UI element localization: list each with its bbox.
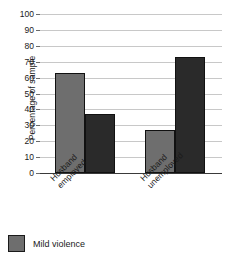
y-tick-mark xyxy=(36,62,40,63)
y-tick-mark xyxy=(36,14,40,15)
y-tick-label: 70 xyxy=(25,57,34,67)
legend-swatch-mild-violence xyxy=(8,235,25,252)
y-tick-mark xyxy=(36,109,40,110)
y-tick-label: 80 xyxy=(25,41,34,51)
y-tick-label: 60 xyxy=(25,73,34,83)
y-tick-label: 10 xyxy=(25,152,34,162)
y-tick-label: 50 xyxy=(25,89,34,99)
plot-area: 0102030405060708090100 xyxy=(40,14,222,173)
y-tick-label: 90 xyxy=(25,25,34,35)
legend-label-mild-violence: Mild violence xyxy=(33,239,85,249)
y-tick-mark xyxy=(36,94,40,95)
y-tick-label: 30 xyxy=(25,120,34,130)
gridline xyxy=(40,46,222,47)
y-tick-label: 100 xyxy=(20,9,34,19)
y-tick-mark xyxy=(36,173,40,174)
y-tick-mark xyxy=(36,46,40,47)
y-tick-label: 0 xyxy=(29,168,34,178)
bar xyxy=(85,114,115,173)
gridline xyxy=(40,30,222,31)
bar-chart: Percentage of sample 0102030405060708090… xyxy=(0,0,229,258)
y-tick-mark xyxy=(36,78,40,79)
legend: Mild violence xyxy=(8,235,85,252)
y-tick-label: 40 xyxy=(25,104,34,114)
y-tick-mark xyxy=(36,125,40,126)
gridline xyxy=(40,14,222,15)
y-tick-mark xyxy=(36,30,40,31)
y-tick-label: 20 xyxy=(25,136,34,146)
y-tick-mark xyxy=(36,141,40,142)
y-tick-mark xyxy=(36,157,40,158)
